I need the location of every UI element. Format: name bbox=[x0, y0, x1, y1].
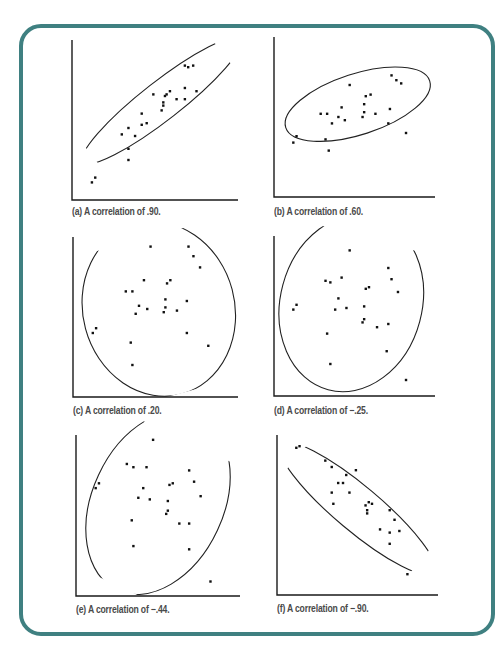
data-point bbox=[379, 528, 381, 530]
data-point bbox=[298, 445, 300, 447]
data-point bbox=[393, 519, 395, 521]
scatterplot-f bbox=[0, 0, 500, 648]
data-point bbox=[389, 509, 391, 511]
data-point bbox=[331, 466, 333, 468]
data-point bbox=[348, 491, 350, 493]
data-point bbox=[324, 459, 326, 461]
data-point bbox=[337, 482, 339, 484]
data-point bbox=[364, 504, 366, 506]
data-point bbox=[406, 573, 408, 575]
data-point bbox=[371, 503, 373, 505]
data-point bbox=[345, 474, 347, 476]
axes bbox=[277, 435, 438, 595]
data-point bbox=[389, 531, 391, 533]
correlation-ellipse bbox=[267, 427, 449, 590]
data-point bbox=[366, 512, 368, 514]
data-point bbox=[332, 503, 334, 505]
caption-f: (f) A correlation of −.90. bbox=[277, 602, 369, 614]
data-point bbox=[355, 469, 357, 471]
data-point bbox=[331, 491, 333, 493]
data-point bbox=[389, 543, 391, 545]
data-point bbox=[366, 509, 368, 511]
data-point bbox=[295, 447, 297, 449]
data-point bbox=[342, 482, 344, 484]
data-point bbox=[368, 501, 370, 503]
data-point bbox=[398, 530, 400, 532]
